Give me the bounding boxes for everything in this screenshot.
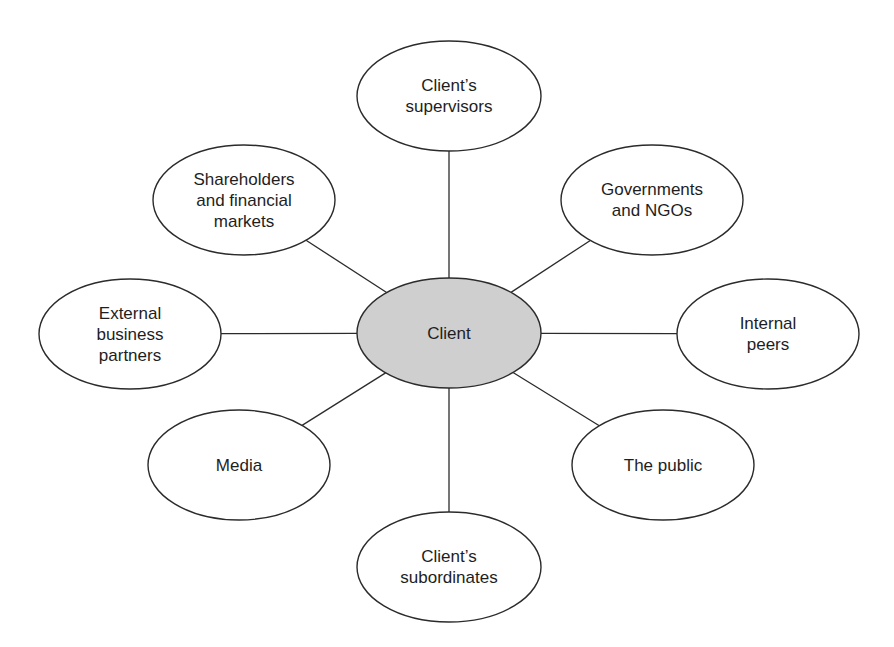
external-partners-label-line: partners [99, 346, 161, 365]
supervisors-label-line: Client’s [421, 76, 476, 95]
shareholders-label-line: markets [214, 212, 274, 231]
internal-peers-label-line: peers [747, 335, 790, 354]
subordinates-label-line: subordinates [400, 568, 497, 587]
subordinates-ellipse [357, 512, 541, 622]
node-external-partners: Externalbusinesspartners [39, 279, 221, 389]
internal-peers-ellipse [677, 279, 859, 389]
subordinates-label-line: Client’s [421, 547, 476, 566]
center-node-client: Client [357, 278, 541, 388]
supervisors-ellipse [357, 41, 541, 151]
edge-client-shareholders [306, 240, 387, 292]
governments-label-line: and NGOs [612, 201, 692, 220]
the-public-label-line: The public [624, 456, 703, 475]
node-subordinates: Client’ssubordinates [357, 512, 541, 622]
the-public-label: The public [624, 456, 703, 475]
external-partners-label: Externalbusinesspartners [96, 304, 163, 365]
node-supervisors: Client’ssupervisors [357, 41, 541, 151]
shareholders-label-line: Shareholders [193, 170, 294, 189]
supervisors-label-line: supervisors [406, 97, 493, 116]
node-the-public: The public [572, 410, 754, 520]
shareholders-label-line: and financial [196, 191, 291, 210]
media-label: Media [216, 456, 263, 475]
external-partners-label-line: business [96, 325, 163, 344]
node-media: Media [148, 410, 330, 520]
governments-label-line: Governments [601, 180, 703, 199]
node-internal-peers: Internalpeers [677, 279, 859, 389]
governments-ellipse [561, 145, 743, 255]
media-label-line: Media [216, 456, 263, 475]
edge-client-media [302, 373, 386, 426]
node-governments: Governmentsand NGOs [561, 145, 743, 255]
edge-client-the-public [513, 372, 599, 425]
node-shareholders: Shareholdersand financialmarkets [153, 145, 335, 255]
edge-client-governments [511, 240, 590, 292]
external-partners-label-line: External [99, 304, 161, 323]
client-label: Client [427, 324, 471, 343]
internal-peers-label-line: Internal [740, 314, 797, 333]
stakeholder-diagram: Client’ssupervisorsGovernmentsand NGOsIn… [0, 0, 894, 647]
